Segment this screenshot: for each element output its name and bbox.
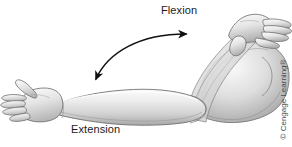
flexion-label: Flexion	[161, 4, 197, 16]
arm-movement-figure: Flexion Extension © Cengage Learning®	[0, 0, 292, 146]
copyright-credit: © Cengage Learning®	[279, 52, 288, 147]
arm-illustration	[0, 0, 292, 146]
extension-label: Extension	[71, 123, 120, 135]
